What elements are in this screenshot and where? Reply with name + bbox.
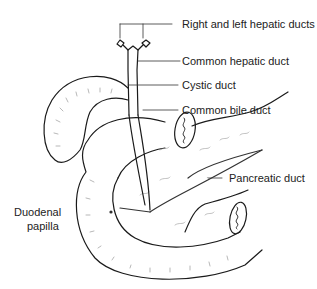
label-right-left-hepatic-ducts: Right and left hepatic ducts bbox=[182, 18, 315, 30]
hepatic-ducts bbox=[117, 40, 150, 115]
label-common-bile-duct: Common bile duct bbox=[182, 104, 271, 116]
label-duodenal-papilla-line2: papilla bbox=[27, 220, 59, 232]
duodenal-papilla-marker bbox=[109, 210, 112, 213]
anatomy-diagram bbox=[0, 0, 317, 289]
label-cystic-duct: Cystic duct bbox=[182, 79, 236, 91]
label-common-hepatic-duct: Common hepatic duct bbox=[182, 55, 289, 67]
label-pancreatic-duct: Pancreatic duct bbox=[229, 172, 305, 184]
label-duodenal-papilla-line1: Duodenal bbox=[14, 206, 61, 218]
